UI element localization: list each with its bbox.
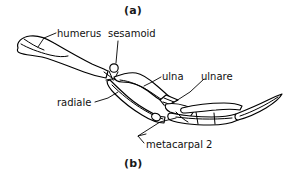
annotation-label-humerus: humerus: [57, 28, 101, 39]
skeleton-drawing: [0, 0, 286, 175]
annotation-label-metacarpal-2: metacarpal 2: [146, 139, 212, 150]
leader-ulnare: [176, 79, 204, 101]
annotation-label-ulna: ulna: [162, 71, 184, 82]
figure-container: (a): [0, 0, 286, 175]
annotation-label-sesamoid: sesamoid: [108, 28, 156, 39]
annotation-label-ulnare: ulnare: [201, 71, 233, 82]
leader-sesamoid: [116, 41, 118, 63]
panel-label-b: (b): [124, 157, 143, 170]
metacarpal-dorsal-element: [181, 103, 242, 113]
sesamoid-bone: [110, 64, 118, 72]
annotation-label-radiale: radiale: [57, 97, 91, 108]
